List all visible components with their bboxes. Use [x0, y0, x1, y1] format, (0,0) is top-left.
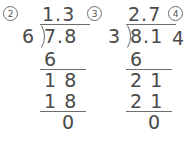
problem-number-4: 4: [168, 6, 183, 21]
remainder-row-2: 0: [16, 112, 90, 133]
partial-remainder-row-2: 1 8: [16, 70, 90, 91]
division-problem-2: 2 1.3 6 7.8 6 1 8 1 8: [0, 0, 90, 147]
quotient-row-2: 1.3: [16, 4, 90, 25]
dividend-value-3: 8.1: [130, 26, 163, 47]
subtrahend-row-2-1: 6: [16, 49, 90, 70]
problem-number-3: 3: [87, 6, 102, 21]
division-worksheet: 2 1.3 6 7.8 6 1 8 1 8: [0, 0, 188, 147]
quotient-value-3: 2.7: [128, 4, 161, 25]
subtrahend-row-2-2: 1 8: [16, 91, 90, 112]
quotient-value-2: 1.3: [42, 4, 75, 25]
subtrahend-value-3-1: 6: [130, 49, 143, 70]
division-problem-4: 4 4: [160, 0, 188, 147]
subtrahend-value-2-2: 1 8: [44, 91, 77, 112]
partial-digit-4: 4: [172, 28, 184, 49]
subtrahend-value-2-1: 6: [44, 49, 57, 70]
subtrahend-value-3-2: 2 1: [130, 91, 163, 112]
divisor-value-3: 3: [108, 26, 120, 47]
partial-remainder-value-2: 1 8: [44, 70, 77, 91]
dividend-value-2: 7.8: [44, 26, 77, 47]
long-division-2: 1.3 6 7.8 6 1 8 1 8 0: [16, 4, 90, 133]
dividend-row-2: 6 7.8: [16, 25, 90, 49]
divisor-value-2: 6: [22, 26, 34, 47]
remainder-value-2: 0: [62, 112, 75, 133]
partial-remainder-value-3: 2 1: [130, 70, 163, 91]
